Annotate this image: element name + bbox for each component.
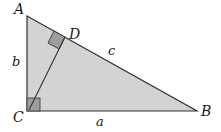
triangle-diagram: A D C B b c a [0, 0, 221, 132]
side-label-c: c [108, 43, 116, 58]
vertex-label-d: D [68, 26, 80, 42]
side-label-a: a [96, 114, 104, 129]
vertex-label-b: B [200, 103, 211, 119]
vertex-label-c: C [13, 109, 24, 125]
vertex-label-a: A [12, 1, 24, 17]
side-label-b: b [12, 54, 20, 69]
